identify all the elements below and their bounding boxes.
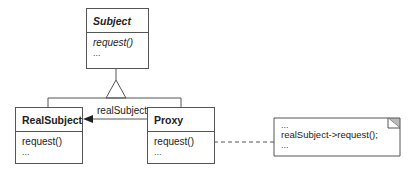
note-line: realSubject->request(); [281,130,400,141]
class-realsubject[interactable]: RealSubject request() ... [15,107,83,164]
arrowhead-icon [83,115,93,123]
association-label: realSubject [97,105,147,116]
operation-ellipsis: ... [93,49,148,58]
class-proxy[interactable]: Proxy request() ... [147,107,215,164]
operation-ellipsis: ... [154,148,214,157]
note-text: ... realSubject->request(); ... [274,118,400,156]
operation-ellipsis: ... [22,148,82,157]
operation: request() [93,36,148,49]
inheritance-triangle-icon [106,80,126,98]
note-line: ... [281,141,400,150]
class-subject[interactable]: Subject request() ... [86,8,149,69]
class-name: Subject [87,9,148,33]
operation: request() [22,135,82,148]
class-name: RealSubject [16,108,82,132]
class-name: Proxy [148,108,214,132]
operation: request() [154,135,214,148]
